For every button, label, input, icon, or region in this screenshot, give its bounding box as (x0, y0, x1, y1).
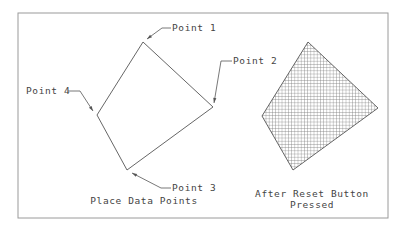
point-label-3: Point 3 (172, 182, 216, 193)
right-caption-line1: After Reset Button (255, 188, 369, 199)
point-labels: Point 1Point 2Point 3Point 4 (26, 22, 277, 193)
arrowhead-icon (132, 173, 137, 177)
arrowhead-icon (89, 106, 93, 111)
arrowhead-icon (147, 35, 152, 39)
placed-points-polygon (97, 42, 213, 170)
leader-line (68, 91, 93, 111)
leader-line (132, 173, 171, 188)
left-caption: Place Data Points (90, 195, 197, 206)
leader-line (214, 61, 232, 103)
point-label-4: Point 4 (26, 85, 70, 96)
point-leaders (68, 28, 232, 188)
point-label-2: Point 2 (233, 55, 277, 66)
hatched-polygon (262, 42, 378, 170)
right-caption-line2: Pressed (290, 199, 334, 210)
diagram-svg: Point 1Point 2Point 3Point 4 Place Data … (0, 0, 405, 233)
diagram-canvas: Point 1Point 2Point 3Point 4 Place Data … (0, 0, 405, 233)
arrowhead-icon (213, 98, 216, 103)
point-label-1: Point 1 (172, 22, 216, 33)
